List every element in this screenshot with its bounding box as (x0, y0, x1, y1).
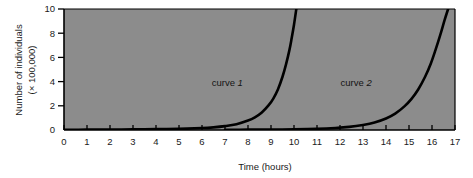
curve-label-number-1: 1 (238, 77, 243, 88)
x-tick-label-11: 11 (312, 136, 322, 147)
x-tick-label-15: 15 (404, 136, 415, 147)
y-axis-title-line-1: Number of individuals (13, 24, 24, 116)
x-tick-label-16: 16 (427, 136, 438, 147)
x-tick-label-1: 1 (84, 136, 89, 147)
x-tick-label-14: 14 (381, 136, 392, 147)
x-tick-label-0: 0 (61, 136, 66, 147)
growth-curves-chart: 01234567891011121314151617 0246810 curve… (0, 0, 473, 178)
curve-label-2: curve 2 (341, 77, 373, 88)
x-tick-label-9: 9 (268, 136, 273, 147)
curve-label-number-2: 2 (365, 77, 372, 88)
y-tick-label-2: 2 (50, 100, 55, 111)
x-tick-label-7: 7 (222, 136, 227, 147)
x-tick-label-4: 4 (153, 136, 158, 147)
curve-label-1: curve 1 (212, 77, 243, 88)
x-axis-title: Time (hours) (238, 161, 292, 172)
curve-label-word-2: curve (341, 77, 367, 88)
y-tick-label-8: 8 (50, 28, 55, 39)
x-tick-label-17: 17 (450, 136, 461, 147)
x-tick-label-10: 10 (289, 136, 300, 147)
x-tick-label-13: 13 (358, 136, 369, 147)
y-axis-title-line-2: (× 100,000) (26, 46, 37, 95)
x-tick-label-12: 12 (335, 136, 346, 147)
chart-figure: 01234567891011121314151617 0246810 curve… (0, 0, 473, 178)
y-tick-label-6: 6 (50, 52, 55, 63)
x-tick-label-3: 3 (130, 136, 135, 147)
x-tick-label-2: 2 (107, 136, 112, 147)
x-tick-label-6: 6 (199, 136, 204, 147)
y-tick-label-0: 0 (50, 124, 55, 135)
x-tick-label-8: 8 (245, 136, 250, 147)
x-tick-label-5: 5 (176, 136, 181, 147)
y-tick-label-10: 10 (44, 3, 55, 14)
curve-label-word-1: curve (212, 77, 238, 88)
y-tick-label-4: 4 (50, 76, 55, 87)
